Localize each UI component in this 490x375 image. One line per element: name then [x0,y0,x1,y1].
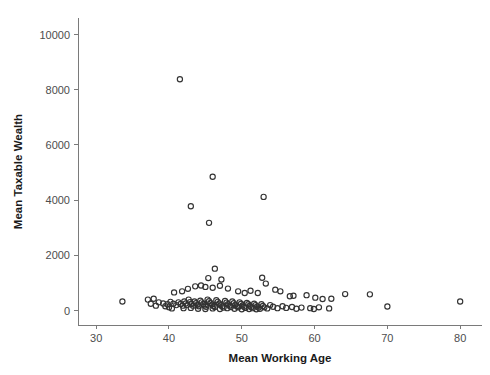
y-tick-label: 8000 [46,84,70,96]
y-tick-label: 6000 [46,139,70,151]
x-tick-label: 30 [90,332,102,344]
y-tick-label: 0 [64,305,70,317]
figure-background [0,0,490,375]
y-tick-label: 2000 [46,249,70,261]
x-axis-title: Mean Working Age [229,352,332,364]
x-tick-label: 40 [163,332,175,344]
y-axis-title: Mean Taxable Wealth [12,114,24,229]
x-tick-label: 60 [308,332,320,344]
plot-canvas: 0200040006000800010000 304050607080 Mean… [0,0,490,375]
scatter-plot-figure: 0200040006000800010000 304050607080 Mean… [0,0,490,375]
x-tick-label: 50 [236,332,248,344]
x-tick-label: 80 [454,332,466,344]
y-tick-label: 10000 [39,29,70,41]
y-tick-label: 4000 [46,194,70,206]
x-tick-label: 70 [381,332,393,344]
